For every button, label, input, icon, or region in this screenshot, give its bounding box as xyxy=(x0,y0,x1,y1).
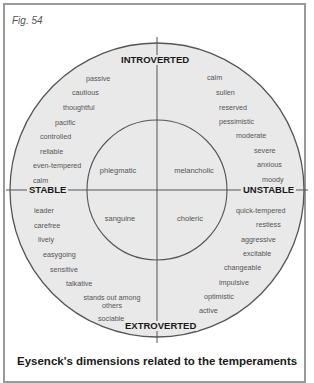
trait: restless xyxy=(256,221,281,228)
figure-caption: Eysenck's dimensions related to the temp… xyxy=(17,355,297,367)
trait: carefree xyxy=(34,222,60,229)
temperament-choleric: choleric xyxy=(177,214,203,223)
temperament-phlegmatic: phlegmatic xyxy=(100,166,136,175)
trait: lively xyxy=(38,236,54,243)
trait: aggressive xyxy=(241,236,276,243)
axis-label-extroverted: EXTROVERTED xyxy=(123,321,198,331)
trait: moody xyxy=(262,176,284,183)
trait: easygoing xyxy=(43,251,76,258)
trait: talkative xyxy=(66,280,92,287)
trait: sociable xyxy=(98,315,124,322)
trait: optimistic xyxy=(204,293,234,300)
trait: impulsive xyxy=(219,279,249,286)
trait: sensitive xyxy=(50,266,78,273)
temperament-sanguine: sanguine xyxy=(105,214,135,223)
trait: thoughtful xyxy=(63,104,95,111)
trait: controlled xyxy=(40,133,71,140)
trait: leader xyxy=(34,207,54,214)
trait: changeable xyxy=(224,264,261,271)
trait: pacific xyxy=(55,119,75,126)
trait: severe xyxy=(254,147,276,154)
trait: passive xyxy=(86,75,110,82)
axis-label-unstable: UNSTABLE xyxy=(241,185,296,195)
trait: quick-tempered xyxy=(236,207,286,214)
trait: sullen xyxy=(216,89,235,96)
trait: even-tempered xyxy=(33,162,81,169)
trait: pessimistic xyxy=(219,118,254,125)
trait: active xyxy=(199,307,218,314)
trait: anxious xyxy=(257,161,282,168)
trait: cautious xyxy=(72,89,99,96)
axis-label-stable: STABLE xyxy=(27,185,68,195)
trait: excitable xyxy=(243,250,271,257)
trait: moderate xyxy=(236,132,266,139)
temperament-melancholic: melancholic xyxy=(174,166,214,175)
axis-label-introverted: INTROVERTED xyxy=(119,55,191,65)
trait: calm xyxy=(207,74,222,81)
trait: stands out among others xyxy=(80,294,144,310)
trait: calm xyxy=(33,177,48,184)
trait: reserved xyxy=(219,104,247,111)
trait: reliable xyxy=(40,148,63,155)
